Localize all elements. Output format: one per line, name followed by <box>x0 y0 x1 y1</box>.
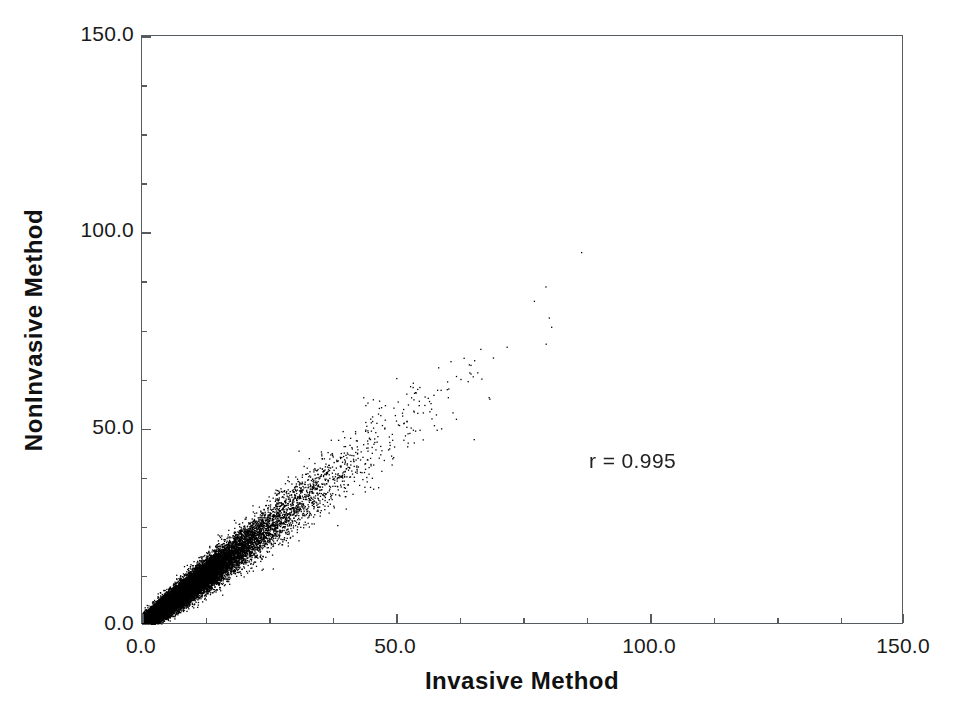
x-tick-mark <box>269 618 271 623</box>
y-tick-mark <box>142 624 151 626</box>
scatter-points-canvas <box>142 36 904 625</box>
x-tick-mark <box>587 618 589 623</box>
x-tick-mark <box>523 618 525 623</box>
x-tick-mark <box>460 618 462 623</box>
x-tick-mark <box>650 614 652 623</box>
correlation-annotation: r = 0.995 <box>589 449 676 473</box>
y-tick-mark <box>142 429 151 431</box>
x-axis-title: Invasive Method <box>141 667 903 695</box>
y-tick-mark <box>142 576 147 578</box>
y-tick-mark <box>142 478 147 480</box>
x-tick-label: 0.0 <box>81 634 201 658</box>
y-tick-label: 50.0 <box>92 415 134 439</box>
y-tick-mark <box>142 134 147 136</box>
x-tick-label: 50.0 <box>335 634 455 658</box>
y-tick-mark <box>142 527 147 529</box>
y-tick-label: 0.0 <box>104 611 134 635</box>
y-tick-mark <box>142 380 147 382</box>
x-tick-mark <box>714 618 716 623</box>
x-tick-mark <box>841 618 843 623</box>
y-tick-mark <box>142 36 151 38</box>
y-tick-mark <box>142 85 147 87</box>
y-tick-mark <box>142 183 147 185</box>
scatter-plot-figure: 0.050.0100.0150.0 0.050.0100.0150.0 NonI… <box>0 0 956 712</box>
x-tick-mark <box>903 614 905 623</box>
x-tick-mark <box>777 618 779 623</box>
plot-frame <box>141 35 903 624</box>
x-tick-mark <box>206 618 208 623</box>
x-tick-label: 150.0 <box>843 634 956 658</box>
x-tick-mark <box>396 614 398 623</box>
y-tick-label: 100.0 <box>80 218 134 242</box>
x-tick-label: 100.0 <box>589 634 709 658</box>
y-axis-title: NonInvasive Method <box>20 36 60 625</box>
y-tick-mark <box>142 331 147 333</box>
y-tick-label: 150.0 <box>80 22 134 46</box>
y-tick-mark <box>142 232 151 234</box>
y-tick-mark <box>142 281 147 283</box>
x-tick-mark <box>142 614 144 623</box>
x-tick-mark <box>333 618 335 623</box>
